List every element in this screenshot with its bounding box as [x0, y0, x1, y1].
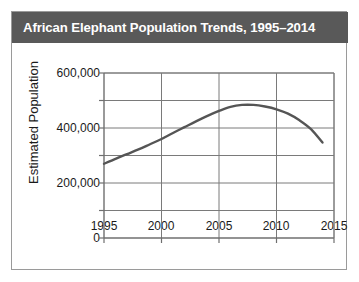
chart-figure-frame: African Elephant Population Trends, 1995…: [11, 11, 347, 270]
axis-tick-marks: [99, 73, 334, 243]
population-trend-line: [104, 105, 323, 164]
chart-title-bar: African Elephant Population Trends, 1995…: [12, 12, 348, 43]
chart-canvas: [12, 43, 348, 271]
chart-plot-area: Estimated Population 600,000 400,000 200…: [12, 43, 348, 271]
grid-lines: [104, 73, 334, 238]
chart-title: African Elephant Population Trends, 1995…: [23, 20, 315, 35]
